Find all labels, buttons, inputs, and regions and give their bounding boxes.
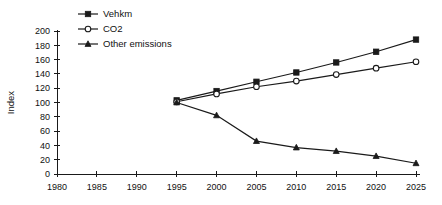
legend-item-co2: CO2 xyxy=(78,23,123,34)
y-tick-label: 20 xyxy=(40,155,50,165)
data-point-marker xyxy=(294,70,299,75)
data-point-marker xyxy=(254,84,260,90)
chart-canvas: 020406080100120140160180200 198019851990… xyxy=(0,0,442,205)
series-other-emissions xyxy=(174,99,419,165)
y-tick-label: 80 xyxy=(40,112,50,122)
x-axis-tick-labels: 1980198519901995200020052010201520202025 xyxy=(47,182,426,192)
y-tick-label: 120 xyxy=(35,83,50,93)
data-point-marker xyxy=(413,37,418,42)
data-point-marker xyxy=(373,49,378,54)
legend-label: CO2 xyxy=(103,23,123,34)
y-axis-tick-labels: 020406080100120140160180200 xyxy=(35,26,50,179)
data-point-marker xyxy=(214,91,220,97)
data-point-marker xyxy=(294,78,300,84)
x-tick-label: 2025 xyxy=(406,182,426,192)
y-tick-label: 160 xyxy=(35,55,50,65)
line-chart: 020406080100120140160180200 198019851990… xyxy=(0,0,442,205)
chart-legend: VehkmCO2Other emissions xyxy=(78,8,172,49)
data-point-marker xyxy=(373,65,379,71)
x-tick-label: 2010 xyxy=(286,182,306,192)
x-tick-label: 1980 xyxy=(47,182,67,192)
y-axis-title: Index xyxy=(5,91,16,114)
data-point-marker xyxy=(413,59,419,65)
y-tick-label: 140 xyxy=(35,69,50,79)
data-point-marker xyxy=(334,60,339,65)
legend-item-vehkm: Vehkm xyxy=(78,8,132,19)
legend-label: Other emissions xyxy=(103,38,172,49)
y-tick-label: 40 xyxy=(40,141,50,151)
y-tick-label: 60 xyxy=(40,126,50,136)
series-co2 xyxy=(174,59,419,105)
x-tick-label: 2020 xyxy=(366,182,386,192)
data-point-marker xyxy=(333,72,339,78)
series-line xyxy=(177,103,416,164)
x-tick-label: 2005 xyxy=(246,182,266,192)
x-tick-label: 1995 xyxy=(167,182,187,192)
legend-marker-icon xyxy=(85,11,90,16)
x-tick-label: 1985 xyxy=(87,182,107,192)
y-tick-label: 180 xyxy=(35,41,50,51)
series-group xyxy=(174,37,419,166)
legend-marker-icon xyxy=(85,26,91,32)
x-tick-label: 2000 xyxy=(207,182,227,192)
legend-label: Vehkm xyxy=(103,8,132,19)
x-tick-label: 2015 xyxy=(326,182,346,192)
series-vehkm xyxy=(174,37,419,103)
x-tick-label: 1990 xyxy=(127,182,147,192)
y-tick-label: 200 xyxy=(35,26,50,36)
data-point-marker xyxy=(253,138,259,144)
legend-item-other-emissions: Other emissions xyxy=(78,38,172,49)
y-tick-label: 100 xyxy=(35,98,50,108)
y-tick-label: 0 xyxy=(45,169,50,179)
